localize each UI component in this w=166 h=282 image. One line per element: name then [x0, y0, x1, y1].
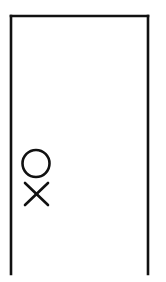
line-drawing-svg — [0, 0, 166, 282]
figure-canvas: Open rectangle with circle and cross mar… — [0, 0, 166, 282]
canvas-background — [0, 0, 166, 282]
